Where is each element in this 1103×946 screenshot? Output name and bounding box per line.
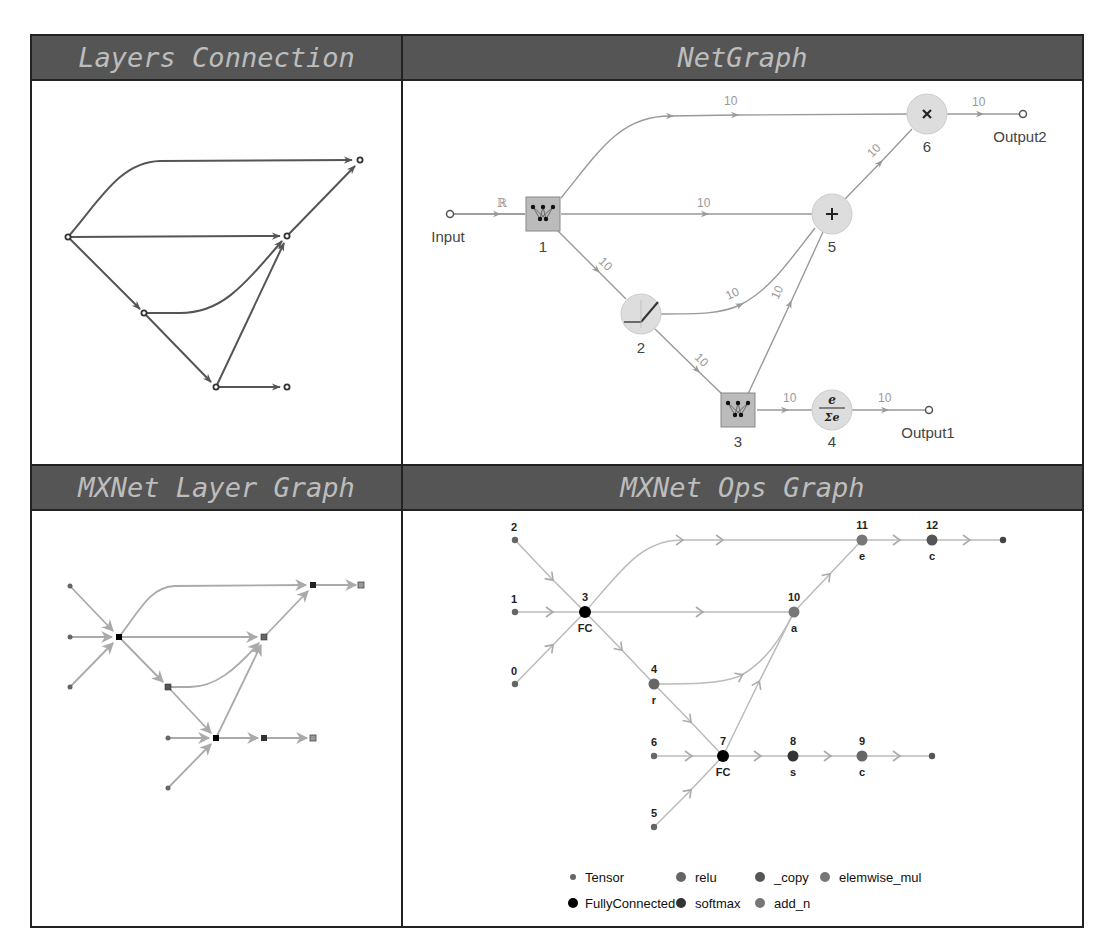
svg-text:1: 1 — [539, 238, 547, 255]
svg-text:5: 5 — [828, 238, 836, 255]
svg-text:10: 10 — [768, 283, 786, 301]
svg-text:Output1: Output1 — [901, 424, 954, 441]
svg-text:_copy: _copy — [773, 870, 809, 885]
svg-text:e: e — [828, 393, 836, 407]
svg-text:s: s — [790, 766, 796, 778]
input-type-label: ℝ — [497, 196, 508, 210]
mxnet-ops-graph-edges — [515, 540, 1003, 827]
mxnet-ops-graph-nodes: 2 1 0 3FC 4r 10a 11e 12c 6 5 7FC 8s 9c — [511, 519, 1006, 830]
svg-text:4: 4 — [651, 663, 658, 675]
svg-text:r: r — [652, 694, 657, 706]
mxnet-layer-graph-edges — [70, 585, 356, 788]
mxnet-layer-graph-nodes — [68, 582, 365, 791]
svg-text:10: 10 — [788, 591, 800, 603]
svg-text:11: 11 — [856, 519, 868, 531]
svg-text:FullyConnected: FullyConnected — [585, 896, 675, 911]
svg-text:c: c — [929, 550, 935, 562]
svg-text:5: 5 — [651, 807, 657, 819]
svg-text:10: 10 — [972, 95, 986, 109]
ops-graph-legend: Tensor relu _copy elemwise_mul FullyConn… — [568, 870, 921, 911]
svg-text:3: 3 — [582, 591, 588, 603]
svg-text:a: a — [791, 622, 798, 634]
svg-text:10: 10 — [723, 284, 741, 302]
svg-text:c: c — [859, 766, 865, 778]
svg-text:3: 3 — [734, 433, 742, 450]
svg-text:FC: FC — [578, 622, 593, 634]
svg-text:relu: relu — [695, 870, 717, 885]
netgraph-ports: Input Output2 Output1 — [431, 111, 1046, 442]
svg-text:9: 9 — [859, 735, 865, 747]
svg-text:4: 4 — [828, 433, 836, 450]
netgraph-edge-labels: ℝ 10 10 10 10 10 10 10 10 10 10 — [497, 94, 986, 405]
svg-text:10: 10 — [724, 94, 738, 108]
layers-connection-nodes — [65, 157, 362, 389]
linear-layer-node-3: 3 — [721, 393, 755, 450]
svg-text:Σe: Σe — [824, 411, 840, 424]
softmax-node-4: e Σe 4 — [812, 390, 852, 450]
svg-text:12: 12 — [926, 519, 938, 531]
plus-node-5: 5 — [812, 194, 852, 255]
svg-text:10: 10 — [783, 391, 797, 405]
output2-port — [1020, 111, 1027, 118]
linear-layer-node-1: 1 — [526, 197, 560, 255]
times-node-6: 6 — [907, 94, 947, 155]
svg-text:elemwise_mul: elemwise_mul — [839, 870, 921, 885]
svg-text:Tensor: Tensor — [585, 870, 625, 885]
svg-text:2: 2 — [637, 339, 645, 356]
svg-text:e: e — [859, 550, 865, 562]
svg-text:softmax: softmax — [695, 896, 741, 911]
layers-connection-graph — [68, 160, 355, 387]
svg-text:0: 0 — [511, 665, 517, 677]
svg-text:1: 1 — [511, 593, 517, 605]
svg-text:Input: Input — [431, 228, 465, 245]
svg-text:8: 8 — [790, 735, 796, 747]
svg-text:10: 10 — [878, 391, 892, 405]
svg-text:add_n: add_n — [774, 896, 810, 911]
svg-text:2: 2 — [511, 521, 517, 533]
svg-text:6: 6 — [923, 138, 931, 155]
svg-text:FC: FC — [716, 766, 731, 778]
svg-text:10: 10 — [864, 141, 884, 161]
ramp-node-2: 2 — [621, 294, 661, 356]
netgraph-edges — [452, 114, 1020, 410]
output1-port — [926, 407, 933, 414]
svg-text:7: 7 — [720, 735, 726, 747]
diagram-canvas: ℝ 10 10 10 10 10 10 10 10 10 10 Input Ou… — [0, 0, 1103, 946]
svg-text:10: 10 — [692, 350, 712, 370]
svg-text:6: 6 — [651, 736, 657, 748]
svg-text:Output2: Output2 — [993, 128, 1046, 145]
svg-text:10: 10 — [697, 196, 711, 210]
input-port — [447, 211, 454, 218]
